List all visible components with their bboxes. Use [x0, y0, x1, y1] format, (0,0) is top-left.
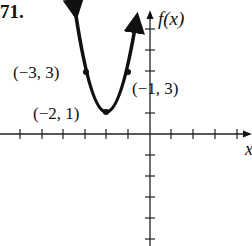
y-axis-label: f(x) [158, 9, 184, 28]
label-point-neg3-3: (−3, 3) [13, 64, 59, 81]
y-axis [145, 12, 155, 246]
x-axis [0, 129, 250, 139]
graph-canvas [0, 0, 252, 246]
point-neg3-3 [83, 69, 89, 75]
point-neg1-3 [125, 69, 131, 75]
point-vertex-neg2-1 [103, 109, 109, 115]
label-point-neg1-3: (−1, 3) [132, 80, 178, 97]
label-point-neg2-1: (−2, 1) [33, 105, 79, 122]
parabola-curve [76, 16, 137, 112]
x-axis-label: x [245, 140, 252, 158]
